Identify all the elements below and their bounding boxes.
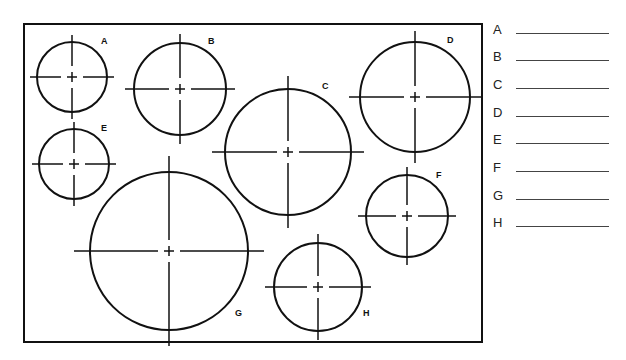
circle-label: H [363, 308, 370, 318]
answer-row-f: F [488, 158, 618, 178]
answer-row-d: D [488, 103, 618, 123]
answer-letter: H [493, 215, 502, 230]
circle-label: B [208, 36, 215, 46]
circle-e: E [32, 122, 116, 206]
circles-layer: ABCDEFGH [30, 31, 481, 346]
answer-row-e: E [488, 130, 618, 150]
circle-label: C [322, 81, 329, 91]
answer-row-a: A [488, 20, 618, 40]
circle-a: A [30, 35, 114, 119]
answer-blank-e[interactable] [516, 143, 609, 144]
circle-c: C [212, 76, 364, 228]
answer-letter: G [493, 188, 503, 203]
circle-h: H [265, 234, 371, 340]
answer-blank-h[interactable] [516, 226, 609, 227]
answer-blank-d[interactable] [516, 116, 609, 117]
answer-row-c: C [488, 75, 618, 95]
answer-letter: D [493, 105, 502, 120]
answer-row-h: H [488, 213, 618, 233]
answer-row-b: B [488, 47, 618, 67]
answer-blank-a[interactable] [516, 33, 609, 34]
answer-letter: C [493, 77, 502, 92]
circle-label: A [101, 36, 108, 46]
circle-label: E [101, 123, 107, 133]
answer-blank-b[interactable] [516, 60, 609, 61]
answer-letter: E [493, 132, 502, 147]
answer-blank-g[interactable] [516, 199, 609, 200]
circle-b: B [125, 34, 235, 144]
drawing-frame [24, 24, 482, 342]
circle-label: F [436, 170, 442, 180]
circle-d: D [349, 31, 481, 163]
answer-row-g: G [488, 186, 618, 206]
circle-f: F [358, 167, 456, 265]
answer-blank-f[interactable] [516, 171, 609, 172]
circle-label: D [447, 35, 454, 45]
answer-letter: B [493, 49, 502, 64]
answer-letter: F [493, 160, 501, 175]
answer-blank-c[interactable] [516, 88, 609, 89]
answer-letter: A [493, 22, 502, 37]
circle-label: G [235, 308, 242, 318]
